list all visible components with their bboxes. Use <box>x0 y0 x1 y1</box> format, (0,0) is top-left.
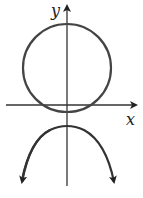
parabola-curve <box>22 126 114 182</box>
parabola-left-arrow <box>22 130 50 182</box>
x-axis-label: x <box>126 110 135 129</box>
graph: y x <box>0 0 143 198</box>
y-axis-label: y <box>50 1 61 20</box>
